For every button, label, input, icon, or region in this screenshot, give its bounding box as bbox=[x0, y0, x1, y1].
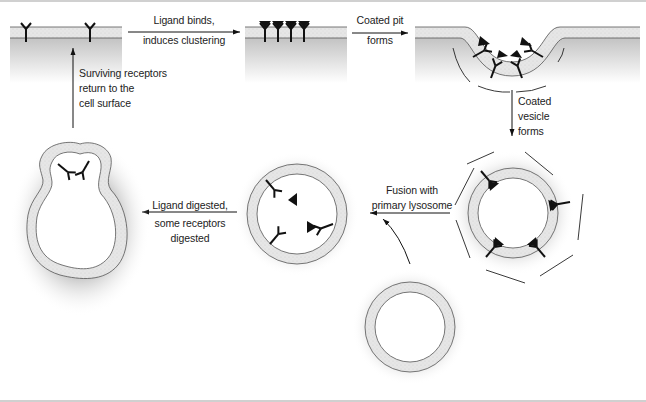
label-coated-pit: Coated pit forms bbox=[350, 13, 410, 48]
label-coated-vesicle: Coated vesicle forms bbox=[518, 94, 578, 139]
label-fusion: Fusion with primary lysosome bbox=[370, 183, 454, 213]
fused-vesicle bbox=[235, 152, 359, 276]
label-ligand-digested: Ligand digested, some receptors digested bbox=[140, 198, 240, 246]
coated-vesicle bbox=[451, 151, 583, 283]
primary-lysosome bbox=[352, 269, 468, 385]
label-ligand-binds: Ligand binds, induces clustering bbox=[128, 13, 240, 48]
label-surviving-receptors: Surviving receptors return to the cell s… bbox=[79, 66, 189, 111]
cluster-panel bbox=[245, 21, 347, 83]
endocytosis-diagram bbox=[0, 0, 646, 402]
coated-pit-panel bbox=[415, 27, 640, 92]
recycling-vesicle bbox=[10, 136, 150, 316]
